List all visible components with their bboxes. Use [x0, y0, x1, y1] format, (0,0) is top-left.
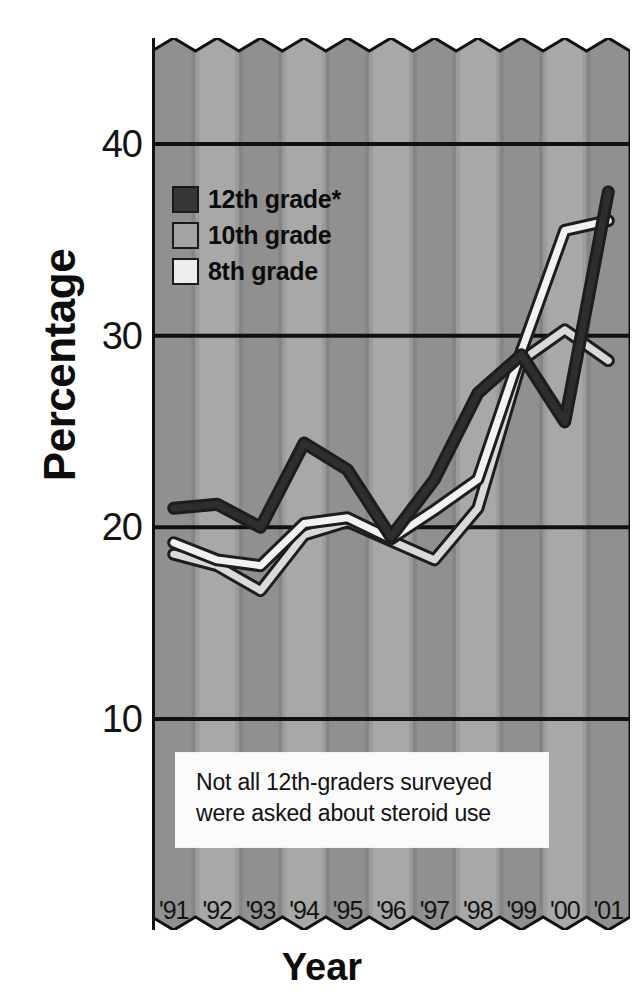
- legend-item-10th-grade[interactable]: 10th grade: [172, 218, 382, 252]
- legend-label-12th-grade: 12th grade*: [208, 185, 341, 214]
- legend-label-10th-grade: 10th grade: [208, 221, 331, 250]
- x-tick-01: '01: [587, 896, 630, 934]
- x-tick-00: '00: [543, 896, 586, 934]
- y-axis-ticks: 40 30 20 10: [30, 0, 142, 1005]
- x-tick-95: '95: [326, 896, 369, 934]
- y-tick-30: 30: [42, 315, 142, 358]
- legend-swatch-10th-grade: [172, 222, 199, 249]
- y-tick-10: 10: [42, 698, 142, 741]
- legend-swatch-8th-grade: [172, 258, 199, 285]
- x-tick-97: '97: [413, 896, 456, 934]
- footnote-line-2: were asked about steroid use: [196, 798, 530, 829]
- legend: 12th grade* 10th grade 8th grade: [172, 182, 382, 290]
- x-tick-94: '94: [282, 896, 325, 934]
- legend-item-8th-grade[interactable]: 8th grade: [172, 254, 382, 288]
- x-tick-93: '93: [239, 896, 282, 934]
- x-tick-98: '98: [456, 896, 499, 934]
- footnote-line-1: Not all 12th-graders surveyed: [196, 767, 530, 798]
- y-tick-40: 40: [42, 123, 142, 166]
- chart-figure: Percentage 40 30 20 10 12t: [0, 0, 644, 1005]
- x-axis-ticks: '91 '92 '93 '94 '95 '96 '97 '98 '99 '00 …: [152, 896, 630, 934]
- x-tick-91: '91: [152, 896, 195, 934]
- y-tick-20: 20: [42, 506, 142, 549]
- x-tick-92: '92: [195, 896, 238, 934]
- footnote-box: Not all 12th-graders surveyed were asked…: [176, 753, 548, 847]
- legend-swatch-12th-grade: [172, 186, 199, 213]
- x-tick-99: '99: [500, 896, 543, 934]
- x-axis-title: Year: [0, 946, 644, 989]
- legend-item-12th-grade[interactable]: 12th grade*: [172, 182, 382, 216]
- legend-label-8th-grade: 8th grade: [208, 257, 318, 286]
- x-tick-96: '96: [369, 896, 412, 934]
